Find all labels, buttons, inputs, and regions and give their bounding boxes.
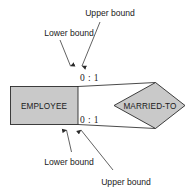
leader-line-bottom-lower	[67, 130, 72, 152]
annotation-bottom-lower: Lower bound	[44, 157, 94, 167]
diagram-canvas: EMPLOYEE MARRIED-TO 0 : 1 0 : 1 Upper bo…	[0, 0, 195, 195]
cardinality-labels: 0 : 1 0 : 1	[80, 73, 99, 125]
annotation-bottom-upper: Upper bound	[101, 177, 151, 187]
annotation-top-lower: Lower bound	[44, 28, 94, 38]
relationship-married-to[interactable]: MARRIED-TO	[114, 83, 185, 129]
connector-line-bottom	[78, 125, 156, 129]
er-diagram: EMPLOYEE MARRIED-TO 0 : 1 0 : 1 Upper bo…	[0, 0, 195, 195]
relationship-label: MARRIED-TO	[123, 102, 176, 111]
entity-employee-label: EMPLOYEE	[21, 102, 68, 111]
entity-employee[interactable]: EMPLOYEE	[11, 87, 79, 125]
cardinality-label-bottom: 0 : 1	[80, 115, 99, 125]
leader-line-top-lower	[60, 40, 71, 66]
cardinality-label-top: 0 : 1	[80, 73, 99, 83]
connector-line-top	[78, 83, 156, 87]
annotation-top-upper: Upper bound	[85, 8, 135, 18]
